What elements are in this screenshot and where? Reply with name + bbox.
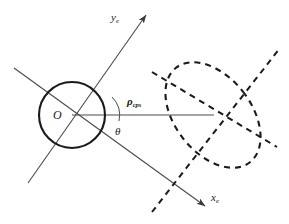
x-axis-line xyxy=(14,68,205,206)
label-origin: O xyxy=(53,109,62,121)
ellipse-major-dashed-line xyxy=(152,48,280,212)
diagram-figure: ye xe O θ ρcps xyxy=(0,0,289,224)
label-rho-subscript: cps xyxy=(133,101,142,108)
ellipse-minor-dashed-line xyxy=(152,72,277,147)
label-x-axis-subscript: e xyxy=(216,197,219,205)
label-y-axis: ye xyxy=(111,12,119,25)
label-x-axis: xe xyxy=(211,192,219,205)
label-rho-vector: ρcps xyxy=(127,96,141,108)
theta-angle-arc xyxy=(112,97,120,121)
label-y-axis-subscript: e xyxy=(116,17,119,25)
diagram-canvas xyxy=(0,0,289,224)
label-angle-theta: θ xyxy=(115,126,120,137)
